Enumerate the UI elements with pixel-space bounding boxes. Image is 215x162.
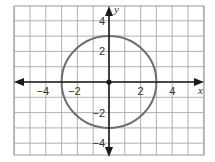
y-tick-label: −2 [92,107,105,119]
x-axis-left-arrow-icon [14,78,24,86]
y-tick-label: 2 [99,45,105,57]
x-tick-label: −4 [37,85,50,97]
x-tick-label: 4 [169,85,175,97]
y-axis-label: y [113,3,119,15]
y-tick-label: −4 [92,137,105,149]
x-axis-label: x [197,84,203,96]
coordinate-plane: −4−22442−2−4 x y [0,0,215,162]
y-axis-up-arrow-icon [105,6,113,16]
y-tick-label: 4 [99,15,105,27]
x-tick-label: −2 [68,85,81,97]
origin-point [106,79,111,84]
x-tick-label: 2 [138,85,144,97]
